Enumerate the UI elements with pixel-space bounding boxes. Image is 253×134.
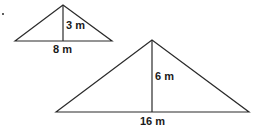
small-triangle	[15, 5, 112, 41]
large-triangle	[56, 40, 249, 112]
large-triangle-base-label: 16 m	[140, 116, 165, 127]
small-triangle-base-label: 8 m	[53, 44, 72, 55]
large-triangle-height-label: 6 m	[155, 71, 174, 82]
small-triangle-height-label: 3 m	[66, 20, 85, 31]
diagram-canvas	[0, 0, 253, 134]
bullet-dot	[2, 13, 4, 15]
